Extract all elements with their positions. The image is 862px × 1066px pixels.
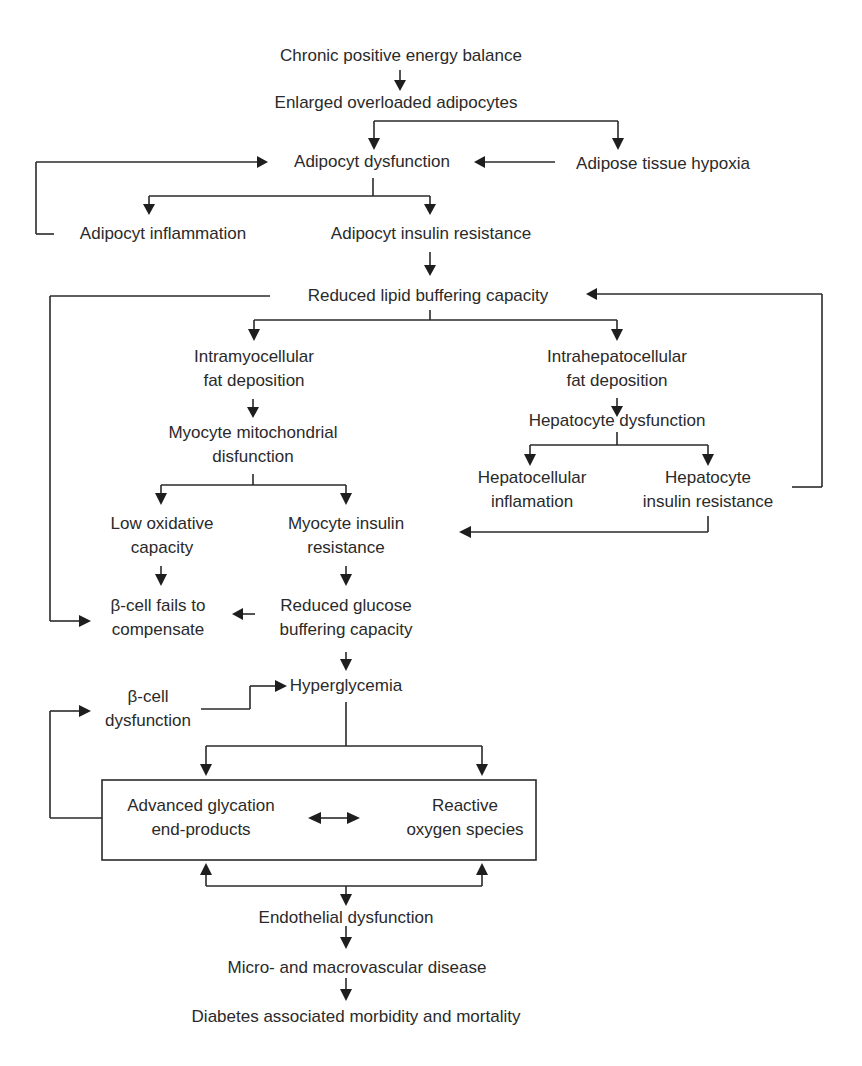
node-advanced-glycation-end-products: Advanced glycation end-products	[127, 794, 274, 842]
arrow-enlarged-split	[368, 121, 624, 150]
node-beta-cell-fails-to-compensate: β-cell fails to compensate	[111, 594, 206, 642]
node-micro-and-macrovascular-disease: Micro- and macrovascular disease	[228, 956, 487, 980]
node-reactive-oxygen-species: Reactive oxygen species	[406, 794, 523, 842]
node-intrahepatocellular-fat-deposition: Intrahepatocellular fat deposition	[547, 345, 687, 393]
node-hepatocyte-dysfunction: Hepatocyte dysfunction	[529, 409, 706, 433]
node-enlarged-overloaded-adipocytes: Enlarged overloaded adipocytes	[275, 91, 518, 115]
arrow-vascular-to-morbidity	[340, 978, 352, 1001]
arrow-age-ros-bidirectional	[308, 812, 360, 824]
node-reduced-glucose-buffering-capacity: Reduced glucose buffering capacity	[280, 594, 413, 642]
node-myocyte-insulin-resistance: Myocyte insulin resistance	[288, 512, 404, 560]
node-hyperglycemia: Hyperglycemia	[290, 674, 402, 698]
node-adipocyt-dysfunction: Adipocyt dysfunction	[294, 150, 450, 174]
arrow-intramyo-to-mito	[247, 399, 259, 418]
node-adipocyt-inflammation: Adipocyt inflammation	[80, 222, 246, 246]
arrow-dysfunction-split	[143, 178, 436, 215]
node-hepatocellular-inflamation: Hepatocellular inflamation	[478, 466, 587, 514]
arrow-hypoxia-to-dysfunction	[474, 156, 555, 168]
arrow-age-feedback-to-beta-dysfunction	[50, 705, 102, 818]
node-adipose-tissue-hypoxia: Adipose tissue hypoxia	[576, 152, 750, 176]
node-endothelial-dysfunction: Endothelial dysfunction	[259, 906, 434, 930]
arrow-hep-dysfunction-split	[524, 432, 714, 466]
arrow-glucose-to-beta-fails	[232, 608, 255, 620]
arrow-chronic-to-enlarged	[394, 70, 406, 91]
arrow-box-endothelial-junction	[200, 863, 488, 906]
node-reduced-lipid-buffering-capacity: Reduced lipid buffering capacity	[308, 284, 549, 308]
node-beta-cell-dysfunction: β-cell dysfunction	[105, 685, 191, 733]
arrow-beta-dysfunction-to-hyperglycemia	[201, 680, 287, 709]
node-diabetes-associated-morbidity-and-mortality: Diabetes associated morbidity and mortal…	[192, 1005, 521, 1029]
node-hepatocyte-insulin-resistance: Hepatocyte insulin resistance	[643, 466, 773, 514]
node-myocyte-mitochondrial-disfunction: Myocyte mitochondrial disfunction	[168, 421, 337, 469]
arrow-hyperglycemia-split	[200, 702, 488, 776]
arrow-myocyte-to-glucose	[340, 566, 352, 586]
node-chronic-positive-energy-balance: Chronic positive energy balance	[280, 44, 522, 68]
node-adipocyt-insulin-resistance: Adipocyt insulin resistance	[331, 222, 531, 246]
arrow-insulin-to-lipid	[424, 252, 436, 276]
node-intramyocellular-fat-deposition: Intramyocellular fat deposition	[194, 345, 314, 393]
arrow-lipid-split	[248, 310, 623, 341]
arrow-hep-insulin-to-myocyte	[459, 516, 708, 538]
arrow-mito-split	[155, 474, 352, 505]
flowchart-canvas: Chronic positive energy balance Enlarged…	[0, 0, 862, 1066]
arrow-lowox-to-beta-fails	[155, 566, 167, 586]
node-low-oxidative-capacity: Low oxidative capacity	[110, 512, 213, 560]
arrow-glucose-to-hyperglycemia	[340, 652, 352, 671]
